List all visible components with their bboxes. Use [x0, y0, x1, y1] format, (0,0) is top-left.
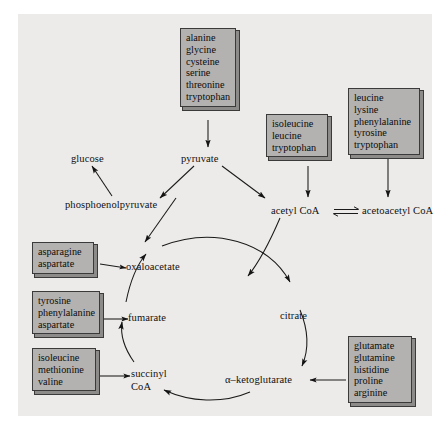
- amino-acid-item: lysine: [354, 104, 414, 116]
- amino-acid-item: methionine: [38, 364, 90, 376]
- label-acetyl-coa: acetyl CoA: [271, 205, 320, 217]
- arrow-pyruvate-to-acetyl-coa: [222, 166, 265, 198]
- amino-acid-item: aspartate: [38, 258, 88, 270]
- amino-acid-item: glutamine: [354, 352, 406, 364]
- box-acetyl-coa-precursors: isoleucine leucine tryptophan: [266, 114, 328, 157]
- amino-acid-item: proline: [354, 375, 406, 387]
- cycle-arc-succinyl-coa-to-fumarate: [122, 322, 135, 362]
- pathway-diagram: alanine glycine cysteine serine threonin…: [18, 14, 432, 416]
- amino-acid-item: tyrosine: [354, 127, 414, 139]
- amino-acid-item: isoleucine: [38, 352, 90, 364]
- amino-acid-item: cysteine: [186, 56, 230, 68]
- cycle-arc-oxaloacetate-to-citrate: [162, 237, 290, 282]
- amino-acid-item: serine: [186, 67, 230, 79]
- label-alpha-ketoglutarate: α–ketoglutarate: [225, 374, 292, 386]
- box-succinyl-coa-precursors: isoleucine methionine valine: [32, 348, 96, 391]
- label-acetoacetyl-coa: acetoacetyl CoA: [362, 205, 433, 217]
- amino-acid-item: tryptophan: [272, 142, 322, 154]
- label-phosphoenolpyruvate: phosphoenolpyruvate: [65, 199, 157, 211]
- label-oxaloacetate: oxaloacetate: [126, 261, 180, 273]
- amino-acid-item: threonine: [186, 79, 230, 91]
- amino-acid-item: aspartate: [38, 319, 94, 331]
- amino-acid-item: histidine: [354, 364, 406, 376]
- label-glucose: glucose: [71, 153, 104, 165]
- amino-acid-item: isoleucine: [272, 118, 322, 130]
- amino-acid-item: alanine: [186, 32, 230, 44]
- box-acetoacetyl-coa-precursors: leucine lysine phenylalanine tyrosine tr…: [348, 88, 420, 155]
- amino-acid-item: tryptophan: [354, 139, 414, 151]
- box-oxaloacetate-precursors: asparagine aspartate: [32, 242, 94, 274]
- box-fumarate-precursors: tyrosine phenylalanine aspartate: [32, 291, 100, 334]
- label-pyruvate: pyruvate: [181, 153, 219, 165]
- label-fumarate: fumarate: [128, 312, 166, 324]
- label-succinyl-coa-line2: CoA: [131, 381, 167, 394]
- arrow-pyruvate-to-pep: [160, 166, 194, 198]
- amino-acid-item: leucine: [354, 92, 414, 104]
- amino-acid-item: glutamate: [354, 340, 406, 352]
- amino-acid-item: valine: [38, 376, 90, 388]
- amino-acid-item: arginine: [354, 387, 406, 399]
- amino-acid-item: tryptophan: [186, 91, 230, 103]
- label-succinyl-coa-line1: succinyl: [131, 368, 167, 381]
- amino-acid-item: leucine: [272, 130, 322, 142]
- cycle-arc-ketoglutarate-to-succinyl-coa: [164, 390, 250, 400]
- box-pyruvate-precursors: alanine glycine cysteine serine threonin…: [180, 28, 236, 107]
- arrow-pep-to-glucose: [92, 166, 112, 196]
- amino-acid-item: phenylalanine: [38, 307, 94, 319]
- label-citrate: citrate: [280, 310, 307, 322]
- amino-acid-item: asparagine: [38, 246, 88, 258]
- amino-acid-item: tyrosine: [38, 295, 94, 307]
- amino-acid-item: phenylalanine: [354, 116, 414, 128]
- label-succinyl-coa: succinyl CoA: [131, 368, 167, 393]
- amino-acid-item: glycine: [186, 44, 230, 56]
- box-alpha-ketoglutarate-precursors: glutamate glutamine histidine proline ar…: [348, 336, 412, 403]
- arrow-aabox-to-oxaloacetate: [100, 264, 126, 268]
